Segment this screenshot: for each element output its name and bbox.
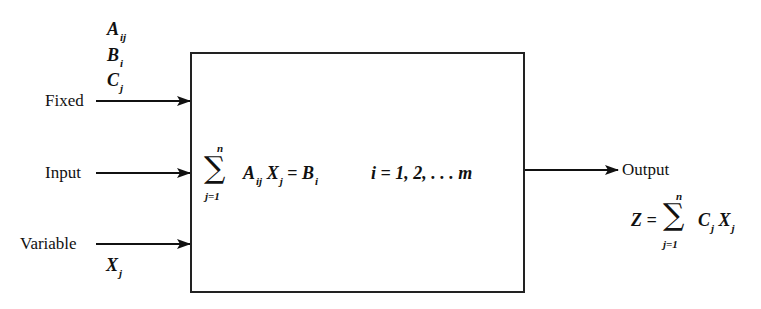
objective-terms: Cj Xj (698, 211, 735, 229)
sum-lower-limit: j=1 (205, 190, 220, 202)
output-label: Output (622, 161, 669, 178)
objective-sum-lower: j=1 (663, 238, 678, 250)
constraint-equation: Aij Xj = Bi (243, 164, 318, 182)
index-range: i = 1, 2, . . . m (371, 164, 472, 182)
param-c-j: Cj (107, 71, 123, 89)
param-a-ij: Aij (107, 20, 126, 38)
variable-label: Variable (20, 235, 77, 252)
variable-x-j: Xj (106, 256, 122, 274)
fixed-label: Fixed (45, 92, 84, 109)
objective-summation-sign: ∑ (663, 200, 684, 230)
param-b-i: Bi (107, 46, 123, 64)
summation-sign: ∑ (204, 153, 225, 183)
objective-lhs: Z = (631, 211, 657, 229)
input-label: Input (45, 164, 81, 181)
model-box (190, 52, 525, 293)
